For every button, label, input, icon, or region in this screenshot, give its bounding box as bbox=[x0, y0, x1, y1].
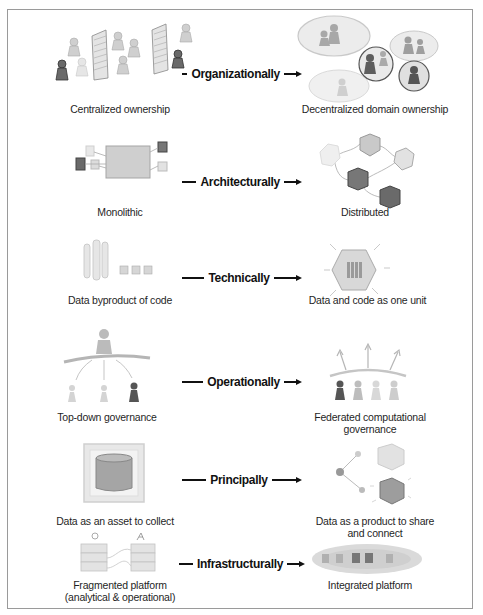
data-barrel-icon bbox=[80, 440, 148, 508]
arrow-organizationally: Organizationally bbox=[182, 66, 302, 82]
caption-data-as-a-product-to-share: Data as a product to share bbox=[300, 515, 450, 527]
arrow-technically: Technically bbox=[182, 270, 302, 286]
fragmented-stacks-icon bbox=[75, 532, 165, 580]
arrow-line bbox=[274, 277, 296, 278]
arrow-line bbox=[182, 181, 196, 182]
dimension-label: Architecturally bbox=[196, 175, 284, 189]
dimension-label: Infrastructurally bbox=[193, 557, 287, 571]
caption-data-and-code-as-one-unit: Data and code as one unit bbox=[295, 294, 440, 306]
hexagon-unit-icon bbox=[322, 240, 392, 300]
integrated-cloud-icon bbox=[310, 542, 425, 576]
dimension-label: Principally bbox=[206, 473, 271, 487]
dimension-label: Operationally bbox=[203, 375, 284, 389]
federated-people-icon bbox=[328, 342, 408, 402]
arrow-operationally: Operationally bbox=[182, 374, 302, 390]
arrow-line bbox=[182, 277, 204, 278]
monolith-block-icon bbox=[72, 140, 172, 185]
caption-data-byproduct-of-code: Data byproduct of code bbox=[40, 294, 200, 306]
caption-decentralized-domain-ownership: Decentralized domain ownership bbox=[290, 103, 460, 115]
dimension-label: Technically bbox=[204, 271, 273, 285]
domain-bubbles-icon bbox=[296, 12, 446, 104]
arrow-line bbox=[287, 563, 299, 564]
dimension-label: Organizationally bbox=[187, 67, 284, 81]
arrow-head-icon bbox=[296, 477, 302, 483]
arrow-head-icon bbox=[296, 275, 302, 281]
caption-centralized-ownership: Centralized ownership bbox=[45, 103, 195, 115]
arrow-infrastructurally: Infrastructurally bbox=[182, 556, 302, 572]
arrow-line bbox=[284, 181, 296, 182]
caption-monolithic: Monolithic bbox=[45, 206, 195, 218]
arrow-line bbox=[284, 381, 296, 382]
centralized-people-icon bbox=[52, 18, 202, 88]
arrow-head-icon bbox=[299, 561, 305, 567]
arrow-architecturally: Architecturally bbox=[182, 174, 302, 190]
caption-top-down-governance: Top-down governance bbox=[32, 411, 182, 423]
arrow-line bbox=[179, 563, 193, 564]
arrow-head-icon bbox=[296, 179, 302, 185]
caption-governance: governance bbox=[300, 423, 440, 435]
caption-integrated-platform: Integrated platform bbox=[305, 579, 435, 591]
hexagon-network-icon bbox=[312, 132, 422, 214]
data-product-icon bbox=[332, 440, 412, 508]
caption-data-as-an-asset-to-collect: Data as an asset to collect bbox=[35, 515, 195, 527]
code-pipes-icon bbox=[80, 238, 165, 283]
caption-federated-computational: Federated computational bbox=[300, 411, 440, 423]
caption-and-connect: and connect bbox=[300, 527, 450, 539]
arrow-line bbox=[182, 479, 206, 480]
arrow-line bbox=[284, 73, 296, 74]
arrow-line bbox=[182, 381, 203, 382]
arrow-head-icon bbox=[296, 379, 302, 385]
arrow-principally: Principally bbox=[182, 472, 302, 488]
caption-analytical-operational: (analytical & operational) bbox=[40, 591, 200, 603]
caption-fragmented-platform: Fragmented platform bbox=[40, 579, 200, 591]
caption-distributed: Distributed bbox=[305, 206, 425, 218]
arrow-line bbox=[272, 479, 296, 480]
top-down-hierarchy-icon bbox=[62, 328, 152, 404]
